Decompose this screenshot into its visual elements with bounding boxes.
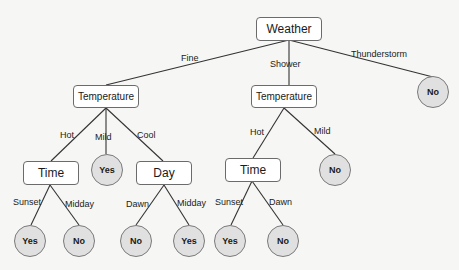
- leaf-shower-hot-dawn-no: No: [267, 225, 299, 257]
- leaf-fine-mild-yes: Yes: [91, 154, 123, 186]
- edge-label-fine: Fine: [181, 54, 199, 63]
- leaf-thunderstorm-no: No: [417, 76, 449, 108]
- edge-label-shower-hot-dawn: Dawn: [269, 198, 292, 207]
- node-day-fine: Day: [136, 161, 192, 185]
- node-temperature-shower: Temperature: [251, 85, 317, 108]
- edge-label-shower: Shower: [270, 60, 301, 69]
- leaf-shower-mild-no: No: [319, 154, 351, 186]
- node-weather: Weather: [256, 17, 322, 41]
- edge-label-fine-mild: Mild: [95, 133, 112, 142]
- decision-tree-diagram: Weather Temperature Temperature Time Day…: [0, 0, 459, 270]
- leaf-shower-hot-sunset-yes: Yes: [214, 225, 246, 257]
- node-temperature-fine: Temperature: [73, 85, 139, 108]
- edge-label-fine-hot-sunset: Sunset: [13, 198, 41, 207]
- edge-label-fine-cool-dawn: Dawn: [126, 200, 149, 209]
- edge-label-thunderstorm: Thunderstorm: [351, 50, 407, 59]
- leaf-fine-hot-midday-no: No: [63, 225, 95, 257]
- edge-label-fine-cool: Cool: [137, 131, 156, 140]
- leaf-fine-hot-sunset-yes: Yes: [14, 225, 46, 257]
- node-time-fine: Time: [23, 161, 79, 185]
- edge-label-fine-cool-midday: Midday: [177, 199, 206, 208]
- node-time-shower: Time: [225, 158, 281, 182]
- leaf-fine-cool-midday-yes: Yes: [173, 225, 205, 257]
- edge-label-shower-hot-sunset: Sunset: [215, 198, 243, 207]
- edge-label-shower-mild: Mild: [314, 127, 331, 136]
- leaf-fine-cool-dawn-no: No: [120, 225, 152, 257]
- edge-label-fine-hot-midday: Midday: [65, 200, 94, 209]
- edge-label-shower-hot: Hot: [250, 128, 264, 137]
- edge-label-fine-hot: Hot: [60, 131, 74, 140]
